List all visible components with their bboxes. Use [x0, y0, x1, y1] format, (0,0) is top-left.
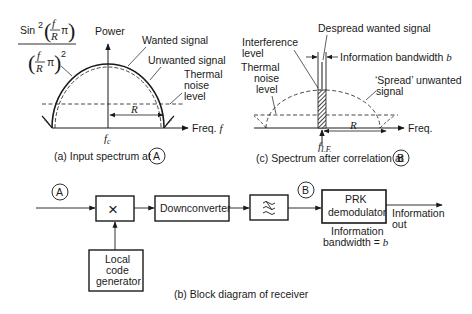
svg-text:generator: generator: [96, 275, 141, 287]
svg-text:Freq. f: Freq. f: [192, 122, 224, 134]
caption-c: (c) Spectrum after correlation at: [256, 152, 404, 164]
panel-a-input-spectrum: Sin 2 ( f R π ) ( f R π ) 2 Power Freq. …: [18, 17, 226, 164]
svg-text:B: B: [302, 184, 309, 196]
svg-text:(: (: [28, 50, 35, 75]
svg-text:A: A: [56, 186, 63, 198]
sinc-formula: Sin 2 ( f R π ) ( f R π ) 2: [18, 17, 76, 76]
svg-text:Freq.: Freq.: [408, 122, 433, 134]
svg-text:Downconverter: Downconverter: [160, 202, 231, 214]
svg-text:R: R: [50, 30, 58, 42]
svg-text:bandwidth = b: bandwidth = b: [323, 236, 389, 248]
panel-c-correlated-spectrum: Freq. Information bandwidth b fI.F. R De…: [241, 22, 462, 166]
svg-text:2: 2: [38, 20, 43, 30]
svg-text:A: A: [153, 150, 160, 162]
svg-text:out: out: [392, 218, 407, 230]
wanted-signal-label: Wanted signal: [142, 34, 208, 46]
svg-text:level: level: [256, 83, 278, 95]
panel-b-block-diagram: A × Downconverter B PRK demodulator Info…: [36, 182, 445, 300]
svg-text:fc: fc: [104, 132, 111, 146]
svg-text:level: level: [242, 47, 264, 59]
svg-text:Information bandwidth b: Information bandwidth b: [340, 51, 452, 63]
caption-b: (b) Block diagram of receiver: [174, 288, 309, 300]
svg-text:signal: signal: [376, 85, 403, 97]
despread-label: Despread wanted signal: [318, 22, 431, 34]
svg-text:R: R: [349, 119, 357, 131]
svg-text:×: ×: [108, 200, 118, 219]
unwanted-signal-label: Unwanted signal: [148, 54, 226, 66]
svg-text:demodulator: demodulator: [328, 206, 387, 218]
svg-text:f: f: [52, 17, 57, 29]
caption-a: (a) Input spectrum at: [54, 150, 151, 162]
svg-text:PRK: PRK: [345, 193, 367, 205]
svg-text:level: level: [184, 90, 206, 102]
power-label: Power: [95, 25, 125, 37]
svg-text:): ): [68, 18, 75, 43]
despread-wanted-signal: [318, 90, 326, 128]
svg-text:f: f: [37, 49, 42, 61]
svg-text:R: R: [130, 103, 138, 115]
svg-text:B: B: [397, 152, 404, 164]
svg-text:2: 2: [61, 49, 66, 59]
svg-text:R: R: [35, 62, 43, 74]
svg-text:Sin: Sin: [20, 24, 35, 36]
